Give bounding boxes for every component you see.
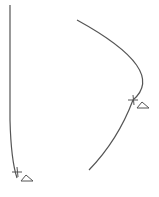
left-curve [10, 5, 17, 178]
right-curve-group [77, 20, 149, 170]
right-triangle-marker-icon [137, 102, 149, 108]
diagram-svg [0, 0, 159, 197]
left-triangle-marker-icon [21, 175, 33, 181]
left-curve-group [10, 5, 33, 181]
right-curve [77, 20, 143, 170]
left-tick-mark-icon [12, 167, 22, 177]
diagram-canvas: Δ Δ [0, 0, 159, 197]
